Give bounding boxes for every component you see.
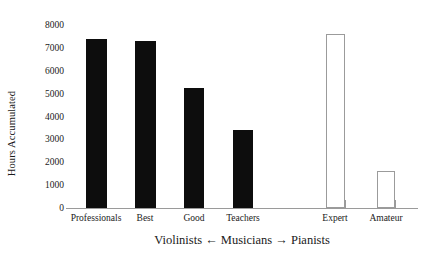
y-tick-label-text: 7000: [36, 43, 64, 53]
x-tick-label-expert: Expert: [322, 212, 347, 224]
bar-chart-figure: Hours Accumulated 0100020003000400050006…: [0, 0, 428, 267]
bar-professionals: [86, 39, 107, 208]
x-tick-label-professionals: Professionals: [71, 212, 122, 224]
y-tick-label-text: 5000: [36, 89, 64, 99]
plot-area: 010002000300040005000600070008000 Profes…: [0, 0, 428, 267]
x-tick-mark: [377, 200, 378, 208]
bar-expert: [326, 34, 345, 208]
y-tick-label-text: 1000: [36, 180, 64, 190]
bar-teachers: [233, 130, 253, 208]
x-axis-title: Violinists ← Musicians → Pianists: [66, 232, 418, 248]
x-tick-mark: [345, 200, 346, 208]
y-tick-label-text: 2000: [36, 157, 64, 167]
x-tick-mark: [326, 200, 327, 208]
y-tick-label-text: 4000: [36, 112, 64, 122]
x-tick-label-amateur: Amateur: [369, 212, 402, 224]
x-tick-label-good: Good: [183, 212, 204, 224]
y-tick-label-text: 6000: [36, 66, 64, 76]
x-tick-label-teachers: Teachers: [226, 212, 260, 224]
y-tick-label-text: 3000: [36, 134, 64, 144]
x-axis-line: [66, 208, 418, 209]
y-tick-label-text: 0: [36, 203, 64, 213]
x-tick-label-best: Best: [137, 212, 154, 224]
bar-best: [135, 41, 156, 208]
x-tick-mark: [395, 200, 396, 208]
y-tick-label-text: 8000: [36, 20, 64, 30]
bar-amateur: [377, 171, 395, 208]
bar-good: [184, 88, 204, 208]
